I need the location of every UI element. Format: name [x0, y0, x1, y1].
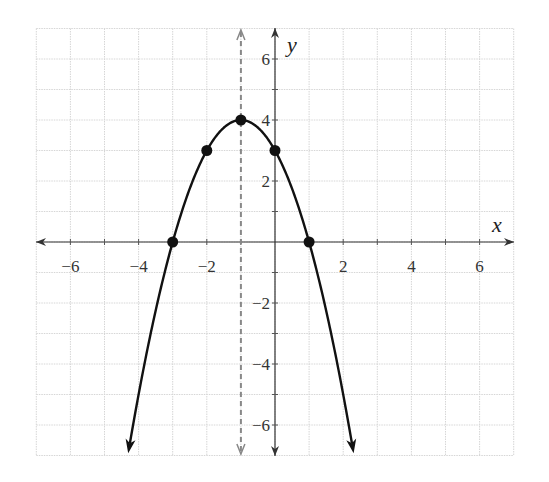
x-tick-label: −4: [130, 257, 149, 276]
y-tick-label: 4: [262, 111, 271, 130]
x-axis-label: x: [491, 212, 502, 237]
x-tick-label: −2: [198, 257, 216, 276]
y-axis-label: y: [285, 32, 297, 57]
data-point: [167, 237, 178, 248]
axes: [36, 28, 514, 456]
y-tick-label: −4: [252, 355, 271, 374]
x-tick-label: −6: [61, 257, 79, 276]
y-tick-label: −2: [252, 294, 270, 313]
x-tick-label: 4: [407, 257, 416, 276]
data-point: [270, 145, 281, 156]
x-tick-label: 6: [475, 257, 484, 276]
y-tick-label: 6: [262, 50, 271, 69]
y-tick-label: −6: [252, 416, 270, 435]
data-point: [201, 145, 212, 156]
y-tick-label: 2: [262, 172, 271, 191]
x-tick-label: 2: [339, 257, 348, 276]
data-point: [304, 237, 315, 248]
data-point: [235, 115, 246, 126]
parabola-graph: −6−4−2246−6−4−2246 x y: [0, 0, 549, 482]
